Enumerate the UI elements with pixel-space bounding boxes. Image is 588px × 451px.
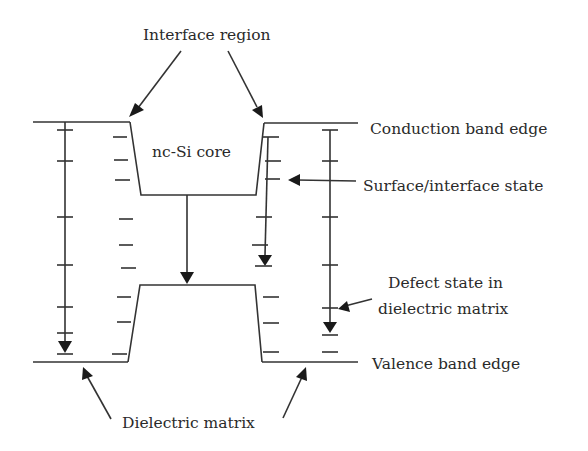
defect-state-label-line1: Defect state in (388, 274, 503, 292)
interface-region-pointer-right (228, 51, 263, 118)
interface-region-label: Interface region (143, 26, 270, 44)
arrowhead-icon (252, 105, 263, 118)
left-interface-states (112, 137, 136, 354)
surface-state-pointer (288, 174, 356, 186)
arrowhead-icon (338, 301, 350, 312)
interface-region-pointer-left (129, 51, 181, 117)
arrowhead-icon (180, 272, 194, 284)
valence-band-edge-label: Valence band edge (371, 355, 520, 373)
valence-band (33, 285, 358, 362)
dielectric-matrix-label: Dielectric matrix (122, 414, 255, 432)
arrowhead-icon (296, 367, 307, 381)
right-interface-transition-arrow (252, 137, 281, 266)
arrowhead-icon (258, 255, 272, 266)
defect-state-pointer (338, 299, 372, 312)
left-defect-transition-arrow (57, 122, 73, 354)
arrowhead-icon (129, 103, 144, 117)
dielectric-matrix-pointer-left (82, 367, 111, 419)
dielectric-matrix-pointer-right (283, 367, 307, 418)
defect-state-label-line2: dielectric matrix (378, 300, 509, 318)
right-interface-states (263, 297, 279, 352)
band-diagram: nc-Si core Interface region (0, 0, 588, 451)
arrowhead-icon (323, 322, 337, 333)
conduction-band-edge-label: Conduction band edge (370, 120, 547, 138)
arrowhead-icon (288, 174, 300, 186)
arrowhead-icon (58, 341, 72, 353)
core-label: nc-Si core (152, 143, 231, 161)
band-gap-transition-arrow (180, 195, 194, 284)
surface-interface-state-label: Surface/interface state (363, 177, 543, 195)
right-defect-transition-arrow (322, 130, 338, 352)
